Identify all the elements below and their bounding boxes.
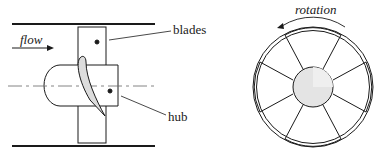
flow-label: flow bbox=[20, 33, 42, 46]
blades-label: blades bbox=[173, 23, 206, 36]
blades-leader-line bbox=[109, 31, 171, 40]
rotation-arrow-arc bbox=[282, 17, 345, 27]
hub-highlight bbox=[313, 67, 333, 87]
front-view bbox=[253, 17, 373, 147]
rotation-arrow-head bbox=[277, 23, 284, 29]
hub-label: hub bbox=[168, 110, 188, 123]
hub-leader-line bbox=[121, 96, 166, 115]
rotation-label: rotation bbox=[295, 3, 336, 16]
flow-arrow-head bbox=[47, 45, 54, 51]
hub-marker-dot bbox=[108, 89, 112, 93]
blade-marker-dot bbox=[95, 40, 99, 44]
